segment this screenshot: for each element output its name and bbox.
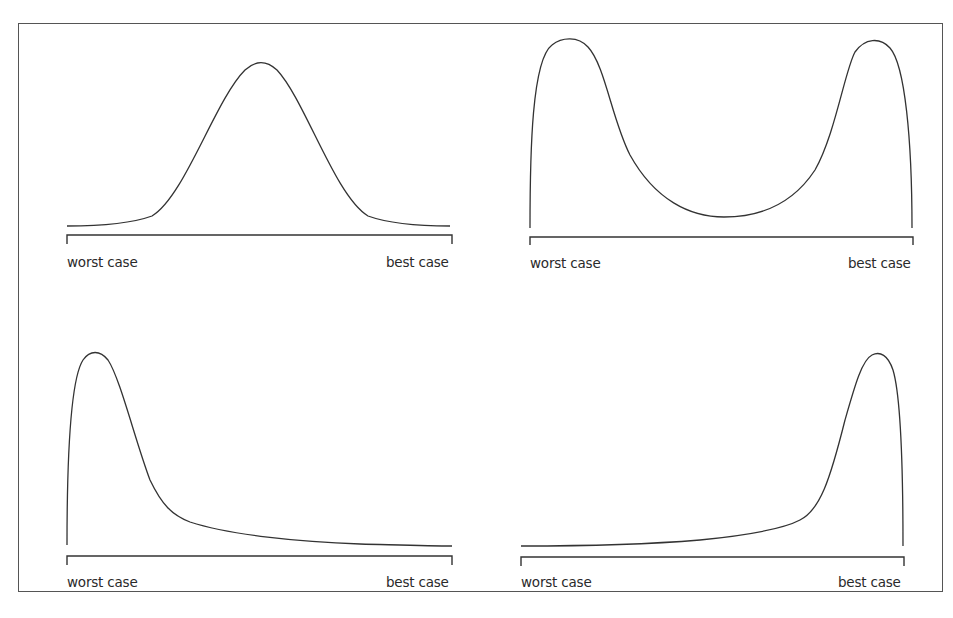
axis-bracket xyxy=(67,235,452,244)
bell-curve xyxy=(67,63,450,227)
right-skewed-curve xyxy=(67,353,452,547)
panel-top-left xyxy=(67,63,452,245)
left-skewed-curve xyxy=(521,354,903,546)
label-worst-case: worst case xyxy=(530,255,601,271)
label-best-case: best case xyxy=(386,254,449,270)
bimodal-curve xyxy=(530,39,912,228)
label-best-case: best case xyxy=(838,574,901,590)
axis-bracket xyxy=(530,237,913,245)
axis-bracket xyxy=(67,556,452,565)
label-worst-case: worst case xyxy=(67,574,138,590)
panel-top-right xyxy=(530,39,913,245)
panel-bottom-left xyxy=(67,353,452,566)
axis-bracket xyxy=(521,557,904,566)
label-best-case: best case xyxy=(848,255,911,271)
label-best-case: best case xyxy=(386,574,449,590)
panel-bottom-right xyxy=(521,354,904,566)
distribution-diagrams xyxy=(0,0,953,618)
label-worst-case: worst case xyxy=(67,254,138,270)
label-worst-case: worst case xyxy=(521,574,592,590)
